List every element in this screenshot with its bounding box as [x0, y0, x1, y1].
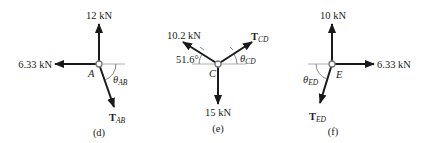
- label-theta-ab: θAB: [113, 74, 128, 87]
- label-15kn: 15 kN: [205, 107, 231, 118]
- caption-d: (d): [93, 127, 106, 139]
- caption-f: (f): [328, 126, 339, 138]
- angle-arc-theta-cd: [234, 54, 237, 64]
- joint-c: [215, 61, 221, 67]
- angle-arc-51-6: [199, 54, 202, 64]
- tick-mark: [200, 47, 204, 50]
- label-6-33kn: 6.33 kN: [18, 59, 52, 70]
- label-joint-e: E: [335, 69, 343, 80]
- force-arrow-ted: [320, 64, 332, 103]
- tick-mark: [230, 47, 233, 50]
- free-body-diagrams: 12 kN 6.33 kN A θAB TAB (d) 10.2 kN TCD …: [0, 0, 427, 143]
- diagram-f: 10 kN 6.33 kN E θED TED (f): [303, 10, 411, 138]
- force-arrow-tab: [99, 64, 114, 107]
- label-theta-ed: θED: [303, 74, 319, 87]
- angle-arc-theta-ed: [316, 64, 327, 79]
- label-10kn: 10 kN: [320, 10, 346, 21]
- diagram-d: 12 kN 6.33 kN A θAB TAB (d): [18, 10, 128, 139]
- joint-e: [329, 61, 335, 67]
- label-10-2kn: 10.2 kN: [167, 30, 201, 41]
- label-12kn: 12 kN: [86, 10, 112, 21]
- caption-e: (e): [212, 123, 224, 135]
- label-joint-a: A: [87, 68, 95, 79]
- label-joint-c: C: [209, 68, 217, 79]
- label-ted: TED: [309, 111, 327, 124]
- diagram-e: 10.2 kN TCD 51.6° θCD C 15 kN (e): [167, 30, 269, 135]
- label-tcd: TCD: [251, 31, 269, 44]
- label-tab: TAB: [109, 112, 126, 125]
- label-6-33kn: 6.33 kN: [377, 59, 411, 70]
- joint-a: [96, 61, 102, 67]
- label-51-6-deg: 51.6°: [176, 54, 199, 65]
